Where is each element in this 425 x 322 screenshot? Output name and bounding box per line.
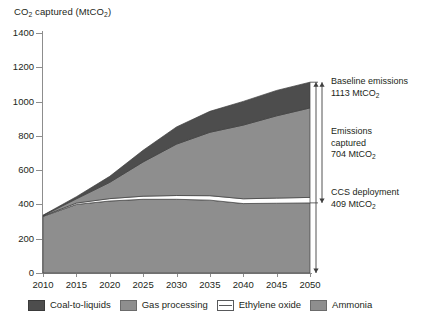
legend-label: Ammonia bbox=[332, 300, 372, 310]
legend-label: Coal-to-liquids bbox=[50, 300, 111, 310]
annotation-ccs-line1: CCS deployment bbox=[331, 187, 399, 199]
legend-swatch-coal-icon bbox=[28, 300, 45, 311]
annotation-baseline-line1: Baseline emissions bbox=[331, 76, 408, 88]
legend-label: Gas processing bbox=[142, 300, 208, 310]
annotation-ccs-deployment: CCS deployment 409 MtCO2 bbox=[331, 187, 399, 210]
chart-legend: Coal-to-liquidsGas processingEthylene ox… bbox=[28, 296, 408, 314]
baseline-emissions-measure-arrow bbox=[313, 82, 318, 273]
area-band-ammonia bbox=[43, 199, 310, 273]
stacked-area-plot bbox=[0, 0, 425, 322]
annotation-baseline-line2: 1113 MtCO2 bbox=[331, 88, 408, 100]
emissions-captured-measure-arrow bbox=[319, 82, 324, 203]
legend-item-eo[interactable]: Ethylene oxide bbox=[217, 300, 301, 311]
legend-item-ammonia[interactable]: Ammonia bbox=[310, 300, 372, 311]
annotation-captured-line1: Emissions bbox=[331, 126, 376, 138]
legend-item-gas[interactable]: Gas processing bbox=[120, 300, 208, 311]
annotation-baseline-emissions: Baseline emissions 1113 MtCO2 bbox=[331, 76, 408, 99]
annotation-ccs-line2: 409 MtCO2 bbox=[331, 199, 399, 211]
legend-swatch-gas-icon bbox=[120, 300, 137, 311]
annotation-captured-line2: captured bbox=[331, 138, 376, 150]
legend-swatch-eo-icon bbox=[217, 300, 234, 311]
legend-item-coal[interactable]: Coal-to-liquids bbox=[28, 300, 111, 311]
annotation-emissions-captured: Emissions captured 704 MtCO2 bbox=[331, 126, 376, 161]
legend-label: Ethylene oxide bbox=[239, 300, 301, 310]
co2-captured-area-chart: CO2 captured (MtCO2) 0200400600800100012… bbox=[0, 0, 425, 322]
legend-swatch-ammonia-icon bbox=[310, 300, 327, 311]
annotation-captured-line3: 704 MtCO2 bbox=[331, 149, 376, 161]
